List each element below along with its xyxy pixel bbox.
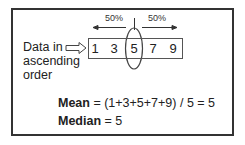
value-5: 9	[167, 41, 179, 56]
right-arrow-icon	[142, 26, 177, 30]
value-1: 1	[89, 41, 101, 56]
value-3-median: 5	[128, 41, 140, 56]
mean-term: Mean	[58, 96, 90, 110]
mean-expression: = (1+3+5+7+9) / 5 = 5	[90, 96, 215, 110]
median-expression: = 5	[101, 114, 122, 128]
value-2: 3	[108, 41, 120, 56]
right-percent-label: 50%	[148, 13, 166, 23]
mean-formula: Mean = (1+3+5+7+9) / 5 = 5	[58, 96, 215, 110]
left-arrow-icon	[93, 26, 126, 30]
hollow-arrow-icon	[66, 43, 86, 54]
left-percent-label: 50%	[105, 13, 123, 23]
median-term: Median	[58, 114, 101, 128]
value-4: 7	[147, 41, 159, 56]
median-formula: Median = 5	[58, 114, 122, 128]
